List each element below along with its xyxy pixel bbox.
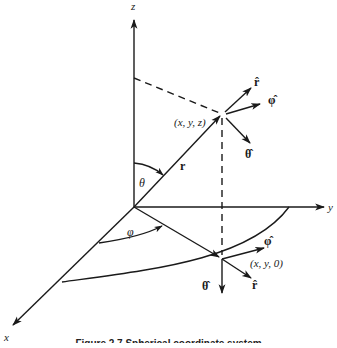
point-p-label: (x, y, z) <box>174 116 206 129</box>
dashed-line-z-to-point <box>134 78 222 114</box>
theta-arc <box>134 163 163 175</box>
spherical-coordinates-diagram: z y x (x, y, z) (x, y, 0) r θ φ r̂ φ̂ θ̂… <box>0 0 337 348</box>
y-axis-label: y <box>327 201 333 213</box>
point-q-label: (x, y, 0) <box>250 257 283 270</box>
r-hat-label-at-p: r̂ <box>254 75 260 89</box>
phi-angle-label: φ <box>127 225 134 239</box>
r-hat-vector-at-q <box>222 259 251 278</box>
x-axis <box>13 207 134 325</box>
phi-hat-label-at-p: φ̂ <box>268 93 277 107</box>
theta-hat-vector-at-p <box>226 118 250 143</box>
r-vector <box>134 116 220 207</box>
r-hat-label-at-q: r̂ <box>252 278 258 292</box>
theta-hat-label-at-p: θ̂ <box>245 147 253 161</box>
r-vector-label: r <box>180 159 186 173</box>
z-axis-label: z <box>130 0 136 12</box>
theta-angle-label: θ <box>139 176 145 190</box>
theta-hat-label-at-q: θ̂ <box>202 279 210 293</box>
phi-hat-label-at-q: φ̂ <box>264 234 273 248</box>
